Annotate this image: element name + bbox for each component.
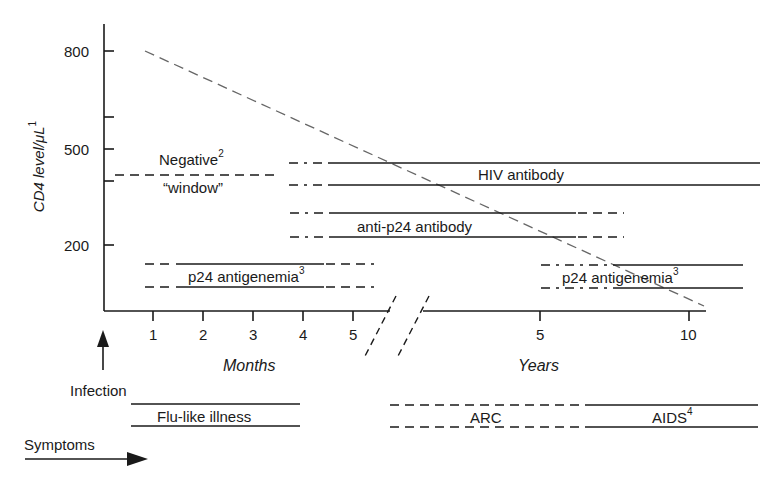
infection-label: Infection xyxy=(70,383,127,398)
y-axis-label-sup: 1 xyxy=(27,121,38,127)
x-axis-label-years: Years xyxy=(518,358,559,374)
infection-arrow xyxy=(97,330,109,370)
x-axis-label-months: Months xyxy=(223,358,275,374)
negative-sup: 2 xyxy=(218,148,224,159)
p24-late-text: p24 antigenemia xyxy=(562,269,673,286)
x-tick-label-m3: 3 xyxy=(249,327,257,342)
p24-early-label: p24 antigenemia3 xyxy=(188,269,304,284)
x-tick-label-m4: 4 xyxy=(299,327,307,342)
p24-late-label: p24 antigenemia3 xyxy=(562,270,678,285)
flu-label: Flu-like illness xyxy=(157,409,251,424)
p24-early-sup: 3 xyxy=(299,265,305,276)
axis-break-marks xyxy=(363,296,429,360)
x-tick-label-m1: 1 xyxy=(149,327,157,342)
arc-label: ARC xyxy=(470,410,502,425)
hiv-antibody-label: HIV antibody xyxy=(478,167,564,182)
anti-p24-label: anti-p24 antibody xyxy=(357,219,472,234)
x-tick-label-y10: 10 xyxy=(680,327,697,342)
x-tick-label-m5: 5 xyxy=(349,327,357,342)
aids-sup: 4 xyxy=(687,406,693,417)
aids-text: AIDS xyxy=(652,409,687,426)
p24-late-sup: 3 xyxy=(673,266,679,277)
y-axis-label: CD4 level/μL1 xyxy=(30,92,47,242)
y-tick-label-800: 800 xyxy=(64,44,89,59)
y-axis-label-text: CD4 level/μL xyxy=(30,126,47,212)
cd4-timeline-diagram xyxy=(0,0,783,504)
window-label: “window” xyxy=(163,180,223,195)
arc-aids-band xyxy=(390,405,758,427)
symptoms-label: Symptoms xyxy=(24,437,95,452)
p24-early-text: p24 antigenemia xyxy=(188,268,299,285)
negative-text: Negative xyxy=(159,151,218,168)
negative-window-label: Negative2 xyxy=(159,152,224,167)
y-tick-label-200: 200 xyxy=(64,238,89,253)
y-tick-label-500: 500 xyxy=(64,142,89,157)
x-tick-label-m2: 2 xyxy=(199,327,207,342)
symptoms-arrow xyxy=(25,452,148,466)
x-tick-label-y5: 5 xyxy=(536,327,544,342)
aids-label: AIDS4 xyxy=(652,410,693,425)
